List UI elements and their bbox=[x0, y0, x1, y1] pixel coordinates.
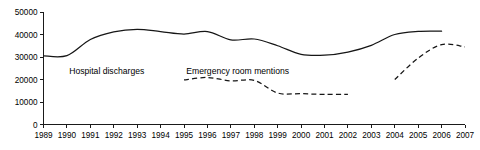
y-tick-label: 40000 bbox=[15, 31, 38, 40]
annotation-label-2: Emergency room mentions bbox=[186, 66, 289, 76]
series-line-hospital-discharges bbox=[44, 29, 442, 57]
x-tick-label: 2005 bbox=[409, 131, 428, 140]
x-tick-label: 2000 bbox=[292, 131, 311, 140]
y-tick-label: 30000 bbox=[15, 53, 38, 62]
x-tick-label: 2006 bbox=[432, 131, 451, 140]
series-line-emergency-room-mentions-seg2 bbox=[395, 44, 465, 79]
y-tick-label: 50000 bbox=[15, 8, 38, 17]
y-tick-label: 10000 bbox=[15, 98, 38, 107]
x-tick-label: 2002 bbox=[339, 131, 358, 140]
y-tick-label: 20000 bbox=[15, 76, 38, 85]
x-tick-label: 1999 bbox=[269, 131, 288, 140]
y-axis-tick-labels: 01000020000300004000050000 bbox=[15, 8, 38, 130]
x-tick-label: 1998 bbox=[245, 131, 264, 140]
x-axis-ticks bbox=[44, 125, 466, 129]
x-tick-label: 1992 bbox=[105, 131, 124, 140]
x-tick-label: 2007 bbox=[456, 131, 475, 140]
y-axis-ticks bbox=[40, 12, 44, 125]
x-tick-label: 1994 bbox=[151, 131, 170, 140]
y-tick-label: 0 bbox=[33, 121, 38, 130]
line-chart: 01000020000300004000050000 1989199019911… bbox=[0, 0, 480, 150]
series-annotations: Hospital dischargesEmergency room mentio… bbox=[69, 66, 289, 76]
x-tick-label: 1996 bbox=[198, 131, 217, 140]
annotation-label-1: Hospital discharges bbox=[69, 66, 144, 76]
x-tick-label: 1993 bbox=[128, 131, 147, 140]
x-tick-label: 1991 bbox=[81, 131, 100, 140]
x-tick-label: 1989 bbox=[34, 131, 53, 140]
x-tick-label: 2001 bbox=[315, 131, 334, 140]
x-axis-tick-labels: 1989199019911992199319941995199619971998… bbox=[34, 131, 474, 140]
x-tick-label: 1997 bbox=[222, 131, 241, 140]
y-axis: 01000020000300004000050000 bbox=[15, 8, 44, 130]
x-tick-label: 1995 bbox=[175, 131, 194, 140]
x-tick-label: 2003 bbox=[362, 131, 381, 140]
x-tick-label: 2004 bbox=[386, 131, 405, 140]
chart-canvas: 01000020000300004000050000 1989199019911… bbox=[0, 0, 480, 150]
x-axis: 1989199019911992199319941995199619971998… bbox=[34, 125, 474, 141]
series-line-emergency-room-mentions-seg1 bbox=[184, 77, 348, 94]
x-tick-label: 1990 bbox=[58, 131, 77, 140]
series-layer bbox=[44, 29, 466, 94]
